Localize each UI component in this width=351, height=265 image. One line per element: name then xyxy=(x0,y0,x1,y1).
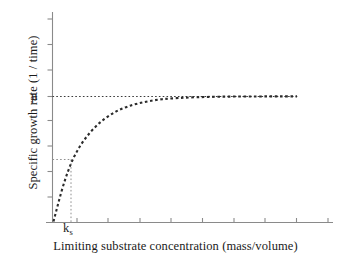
mu-tick-label: μ xyxy=(31,89,38,104)
ks-subscript-text: s xyxy=(69,227,72,237)
y-axis-title: Specific growth rate (1 / time) xyxy=(26,18,41,208)
chart-plot-area xyxy=(0,0,351,265)
x-axis-title: Limiting substrate concentration (mass/v… xyxy=(0,239,351,254)
ks-tick-label: ks xyxy=(63,221,73,236)
monod-curve xyxy=(54,96,298,221)
y-axis-ticks xyxy=(48,19,53,197)
monod-growth-chart: Specific growth rate (1 / time) Limiting… xyxy=(0,0,351,265)
